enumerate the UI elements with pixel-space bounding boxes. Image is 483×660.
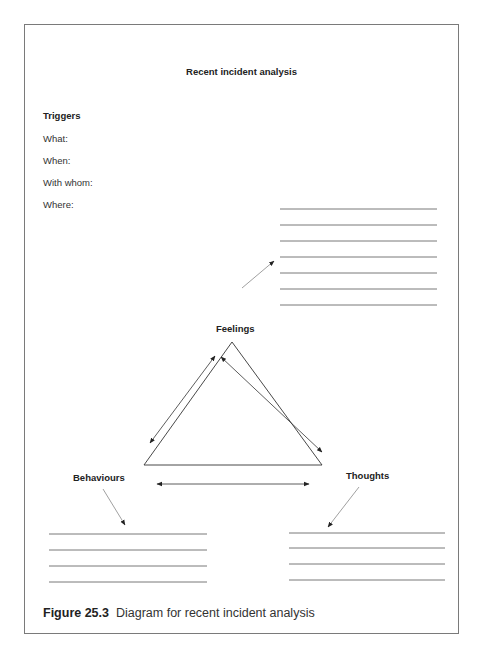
- triggers-answer-lines[interactable]: [280, 209, 437, 305]
- figure-caption-text: Diagram for recent incident analysis: [116, 606, 315, 620]
- thoughts-arrow-icon: [328, 487, 359, 527]
- thoughts-answer-lines[interactable]: [289, 533, 445, 580]
- cycle-triangle: [144, 342, 322, 465]
- diagram-graphics: [0, 0, 483, 660]
- feelings-thoughts-double-arrow-icon: [221, 357, 322, 452]
- feelings-behaviours-double-arrow-icon: [150, 356, 215, 443]
- behaviours-answer-lines[interactable]: [49, 534, 207, 582]
- figure-number: Figure 25.3: [43, 606, 109, 620]
- behaviours-arrow-icon: [103, 489, 125, 525]
- figure-caption: Figure 25.3 Diagram for recent incident …: [43, 606, 315, 620]
- triggers-arrow-icon: [242, 261, 274, 288]
